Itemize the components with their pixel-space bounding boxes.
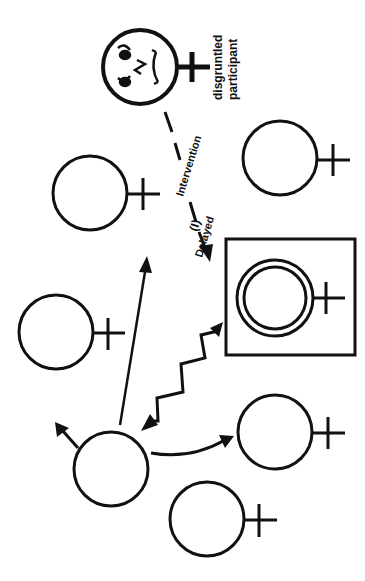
participant-right-node [238,395,345,469]
delayed-intervention-edge: (I) Intervention Delayed [165,112,216,262]
participant-left-node [19,295,125,369]
zigzag-double-arrow [141,322,223,431]
leader-to-right-curved-arrow [151,435,234,455]
intervention-label: Intervention [173,134,203,198]
focal-participant-boxed-node [226,239,355,355]
leader-outward-arrow [55,422,78,448]
participant-bottom-node [170,482,277,556]
diagram-canvas: disgruntled participant (I) Intervention… [0,0,365,581]
disgruntled-label-line2: participant [226,39,240,100]
participant-upper-left-node [53,156,160,230]
disgruntled-participant-node: disgruntled participant [103,30,240,104]
disgruntled-label-line1: disgruntled [211,35,225,100]
frowning-face-icon [118,45,158,86]
participant-top-right-node [243,121,350,195]
leader-node [74,432,148,506]
leader-to-upper-arrow [120,256,152,425]
